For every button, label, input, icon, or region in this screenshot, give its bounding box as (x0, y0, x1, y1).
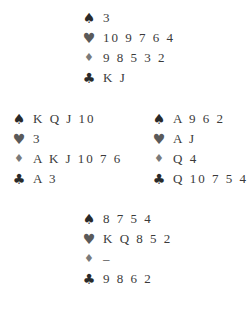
diamond-icon: ♦ (9, 149, 29, 169)
east-spades: A 9 6 2 (173, 109, 225, 129)
spade-icon: ♠ (9, 109, 29, 129)
south-hearts: K Q 8 5 2 (103, 229, 172, 249)
north-clubs: K J (103, 68, 127, 88)
heart-icon: ♥ (9, 129, 29, 149)
west-spades: K Q J 10 (33, 109, 96, 129)
south-diamonds: – (103, 249, 112, 269)
heart-icon: ♥ (79, 28, 99, 48)
heart-icon: ♥ (79, 229, 99, 249)
south-hearts-row: ♥ K Q 8 5 2 (79, 229, 172, 249)
west-spades-row: ♠ K Q J 10 (9, 109, 122, 129)
club-icon: ♣ (79, 68, 99, 88)
west-hearts-row: ♥ 3 (9, 129, 122, 149)
east-hearts-row: ♥ A J (149, 129, 247, 149)
spade-icon: ♠ (79, 8, 99, 28)
diamond-icon: ♦ (79, 249, 99, 269)
west-clubs: A 3 (33, 169, 57, 189)
north-clubs-row: ♣ K J (79, 68, 175, 88)
diamond-icon: ♦ (79, 48, 99, 68)
west-hearts: 3 (33, 129, 42, 149)
club-icon: ♣ (9, 169, 29, 189)
south-spades: 8 7 5 4 (103, 209, 153, 229)
club-icon: ♣ (79, 269, 99, 289)
east-hand: ♠ A 9 6 2 ♥ A J ♦ Q 4 ♣ Q 10 7 5 4 (149, 109, 247, 189)
east-spades-row: ♠ A 9 6 2 (149, 109, 247, 129)
east-diamonds: Q 4 (173, 149, 198, 169)
spade-icon: ♠ (149, 109, 169, 129)
north-diamonds-row: ♦ 9 8 5 3 2 (79, 48, 175, 68)
south-clubs: 9 8 6 2 (103, 269, 153, 289)
diamond-icon: ♦ (149, 149, 169, 169)
north-spades: 3 (103, 8, 112, 28)
south-diamonds-row: ♦ – (79, 249, 172, 269)
south-clubs-row: ♣ 9 8 6 2 (79, 269, 172, 289)
east-hearts: A J (173, 129, 196, 149)
west-diamonds-row: ♦ A K J 10 7 6 (9, 149, 122, 169)
south-hand: ♠ 8 7 5 4 ♥ K Q 8 5 2 ♦ – ♣ 9 8 6 2 (79, 209, 172, 289)
north-spades-row: ♠ 3 (79, 8, 175, 28)
west-hand: ♠ K Q J 10 ♥ 3 ♦ A K J 10 7 6 ♣ A 3 (9, 109, 122, 189)
club-icon: ♣ (149, 169, 169, 189)
north-hearts: 10 9 7 6 4 (103, 28, 175, 48)
north-hand: ♠ 3 ♥ 10 9 7 6 4 ♦ 9 8 5 3 2 ♣ K J (79, 8, 175, 88)
heart-icon: ♥ (149, 129, 169, 149)
east-clubs-row: ♣ Q 10 7 5 4 (149, 169, 247, 189)
spade-icon: ♠ (79, 209, 99, 229)
north-hearts-row: ♥ 10 9 7 6 4 (79, 28, 175, 48)
north-diamonds: 9 8 5 3 2 (103, 48, 167, 68)
west-clubs-row: ♣ A 3 (9, 169, 122, 189)
south-spades-row: ♠ 8 7 5 4 (79, 209, 172, 229)
east-diamonds-row: ♦ Q 4 (149, 149, 247, 169)
east-clubs: Q 10 7 5 4 (173, 169, 247, 189)
west-diamonds: A K J 10 7 6 (33, 149, 122, 169)
